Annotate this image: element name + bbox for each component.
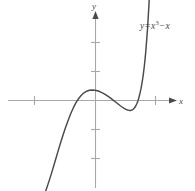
y-axis-label: y: [91, 1, 96, 11]
cubic-function-figure: x y y=x3−x: [0, 0, 195, 191]
x-axis-arrow-icon: [169, 97, 177, 103]
y-axis-arrow-icon: [92, 11, 98, 19]
cubic-curve-path: [46, 0, 150, 191]
equation-variable-tail: x: [165, 21, 169, 31]
equation-annotation: y=x3−x: [140, 21, 170, 31]
x-axis-label: x: [178, 96, 183, 106]
